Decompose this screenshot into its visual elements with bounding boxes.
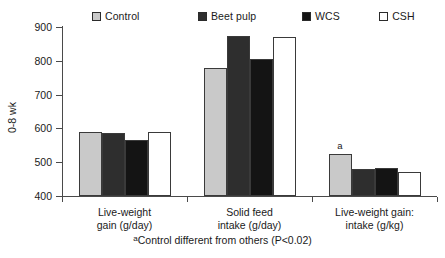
footnote-marker: a (133, 234, 137, 243)
bar-annotation-0: a (334, 141, 346, 151)
category-label-1: Solid feedintake (g/day) (187, 206, 312, 232)
bar-beet-pulp-group-1 (227, 36, 250, 196)
bar-beet-pulp-group-2 (352, 169, 375, 196)
legend-swatch-control (92, 12, 101, 21)
x-tick-end (437, 197, 438, 202)
bar-control-group-2 (329, 154, 352, 196)
bar-csh-group-0 (148, 132, 171, 196)
footnote-text: Control different from others (P<0.02) (138, 234, 312, 246)
category-label-2: Live-weight gain:intake (g/kg) (312, 206, 437, 232)
y-tick-label-800: 800 (18, 56, 52, 66)
y-tick-label-700: 700 (18, 90, 52, 100)
bar-csh-group-2 (398, 172, 421, 196)
y-tick-label-400: 400 (18, 191, 52, 201)
legend-item-control: Control (92, 8, 198, 24)
category-label-0-line-0: Live-weight (62, 206, 187, 219)
legend-label-control: Control (105, 11, 140, 22)
x-tick-2 (312, 197, 313, 202)
plot-area (62, 27, 437, 196)
legend-label-beet-pulp: Beet pulp (211, 11, 256, 22)
bar-control-group-0 (79, 132, 102, 196)
legend-swatch-csh (379, 12, 388, 21)
bar-wcs-group-1 (250, 59, 273, 196)
category-label-2-line-1: intake (g/kg) (312, 219, 437, 232)
legend-item-beet-pulp: Beet pulp (198, 8, 302, 24)
bar-beet-pulp-group-0 (102, 133, 125, 196)
category-label-1-line-1: intake (g/day) (187, 219, 312, 232)
bar-wcs-group-0 (125, 140, 148, 196)
bar-csh-group-1 (273, 37, 296, 196)
bar-chart-figure: Control Beet pulp WCS CSH 0-8 wk 4005006… (0, 0, 445, 258)
category-label-0-line-1: gain (g/day) (62, 219, 187, 232)
category-label-2-line-0: Live-weight gain: (312, 206, 437, 219)
y-tick-label-500: 500 (18, 157, 52, 167)
category-label-0: Live-weightgain (g/day) (62, 206, 187, 232)
x-tick-1 (187, 197, 188, 202)
legend-swatch-wcs (302, 12, 311, 21)
legend-label-wcs: WCS (315, 11, 340, 22)
x-tick-0 (62, 197, 63, 202)
bar-wcs-group-2 (375, 168, 398, 196)
category-label-1-line-0: Solid feed (187, 206, 312, 219)
legend-swatch-beet-pulp (198, 12, 207, 21)
chart-legend: Control Beet pulp WCS CSH (92, 8, 437, 24)
legend-item-wcs: WCS (302, 8, 379, 24)
x-axis-line (62, 196, 437, 197)
bar-control-group-1 (204, 68, 227, 196)
legend-label-csh: CSH (392, 11, 414, 22)
y-tick-label-900: 900 (18, 22, 52, 32)
legend-item-csh: CSH (379, 8, 437, 24)
chart-footnote: aControl different from others (P<0.02) (0, 234, 445, 248)
y-tick-label-600: 600 (18, 123, 52, 133)
